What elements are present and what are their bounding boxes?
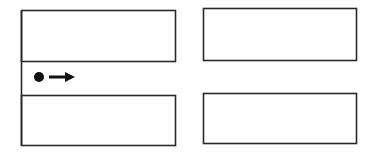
arrow-right-icon [49,72,75,82]
intersection-diagram [0,0,375,153]
top-left-block [22,11,176,62]
bottom-right-block [204,94,357,144]
agent-dot-icon [34,72,44,82]
top-right-block [204,9,357,61]
bottom-left-block [22,96,176,146]
arrow-head [65,72,75,82]
